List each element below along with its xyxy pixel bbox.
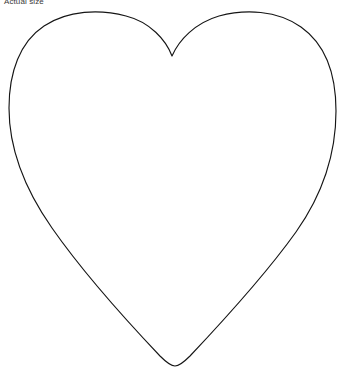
heart-outline-path xyxy=(9,12,336,366)
page-canvas: Actual size xyxy=(0,0,343,375)
heart-template-illustration xyxy=(0,0,343,375)
